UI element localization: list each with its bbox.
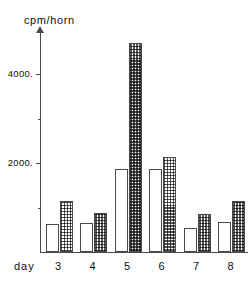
bar-group-day-8: [214, 30, 249, 252]
bar-open-day-4: [80, 223, 93, 252]
x-axis-tick-label-4: 4: [90, 260, 96, 272]
bar-group-day-3: [41, 30, 76, 252]
y-axis-tick-label: 2000.: [8, 157, 33, 168]
x-axis-line: [40, 252, 248, 253]
x-axis-tick-label-3: 3: [55, 260, 61, 272]
x-axis-tick-label-8: 8: [228, 260, 234, 272]
plot-area: [41, 30, 248, 252]
bar-group-day-6: [145, 30, 180, 252]
bar-group-day-5: [110, 30, 145, 252]
x-axis-tick-label-5: 5: [124, 260, 130, 272]
bar-hatched-day-8: [232, 201, 245, 252]
x-axis-tick-label-6: 6: [159, 260, 165, 272]
bar-open-day-7: [184, 228, 197, 252]
x-axis-tick-label-7: 7: [193, 260, 199, 272]
bar-open-day-5: [115, 169, 128, 252]
bar-group-day-7: [179, 30, 214, 252]
y-axis-tick-label: 4000.: [8, 68, 33, 79]
x-axis-title: day: [14, 260, 35, 272]
bar-group-day-4: [76, 30, 111, 252]
bar-hatched-day-7: [198, 214, 211, 252]
bar-open-day-3: [46, 224, 59, 252]
bar-hatched-day-4: [94, 213, 107, 252]
bar-open-day-6: [149, 169, 162, 252]
y-axis-title: cpm/horn: [24, 14, 75, 26]
bar-hatched-day-6: [163, 157, 176, 252]
bar-chart: cpm/horn 2000.4000. day 345678: [0, 0, 252, 281]
bar-hatched-day-5: [129, 43, 142, 252]
bar-hatched-day-3: [60, 201, 73, 252]
bar-open-day-8: [218, 222, 231, 252]
x-axis-labels: day 345678: [0, 256, 252, 278]
